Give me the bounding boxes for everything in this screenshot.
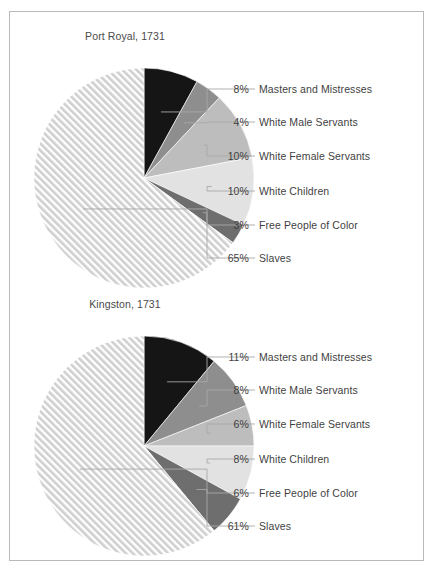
legend-label: Free People of Color [259,487,358,499]
figure-frame: Port Royal, 1731 8%Masters and Mistresse… [9,11,424,561]
legend-label: Slaves [259,252,291,264]
legend-item[interactable]: 6%White Female Servants [215,417,370,431]
legend-label: White Female Servants [259,418,370,430]
legend-percent: 11% [215,351,249,363]
legend-item[interactable]: 10%White Female Servants [215,149,370,163]
legend-label: White Male Servants [259,384,358,396]
legend-percent: 10% [215,150,249,162]
legend-percent: 4% [215,116,249,128]
legend-label: White Female Servants [259,150,370,162]
pie-chart-port-royal: Port Royal, 1731 8%Masters and Mistresse… [10,30,425,292]
legend-item[interactable]: 4%White Male Servants [215,115,358,129]
legend-label: Slaves [259,520,291,532]
legend-percent: 8% [215,83,249,95]
legend-item[interactable]: 8%Masters and Mistresses [215,82,372,96]
pie-chart-kingston: Kingston, 1731 11%Masters and Mistresses… [10,298,425,560]
legend-label: Free People of Color [259,219,358,231]
legend-percent: 10% [215,185,249,197]
legend-item[interactable]: 65%Slaves [215,251,291,265]
legend-percent: 8% [215,453,249,465]
legend-item[interactable]: 8%White Children [215,452,329,466]
legend-item[interactable]: 10%White Children [215,184,329,198]
legend-label: White Male Servants [259,116,358,128]
legend-item[interactable]: 8%White Male Servants [215,383,358,397]
legend-item[interactable]: 6%Free People of Color [215,486,358,500]
legend-label: White Children [259,453,329,465]
legend-label: White Children [259,185,329,197]
legend-label: Masters and Mistresses [259,83,372,95]
legend-item[interactable]: 61%Slaves [215,519,291,533]
legend-item[interactable]: 11%Masters and Mistresses [215,350,372,364]
legend-percent: 61% [215,520,249,532]
legend-percent: 8% [215,384,249,396]
legend-item[interactable]: 3%Free People of Color [215,218,358,232]
legend-percent: 6% [215,418,249,430]
legend-percent: 65% [215,252,249,264]
legend-percent: 3% [215,219,249,231]
legend-percent: 6% [215,487,249,499]
figure-page: Port Royal, 1731 8%Masters and Mistresse… [0,0,434,574]
legend-label: Masters and Mistresses [259,351,372,363]
